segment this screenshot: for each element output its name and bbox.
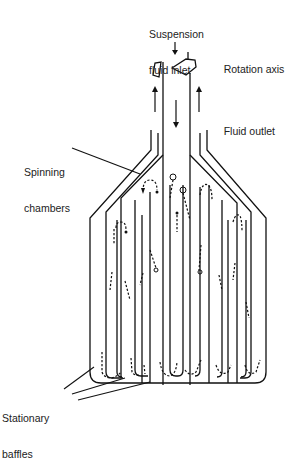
- particle-flow-paths: [102, 174, 260, 378]
- stationary-baffles-label: Stationary baffles: [2, 388, 49, 462]
- leader-lines: [64, 148, 150, 400]
- chamber-wall-3: [121, 155, 237, 383]
- rotation-axis-label: Rotation axis: [212, 51, 284, 87]
- fluid-outlet-label: Fluid outlet: [212, 113, 275, 149]
- down-flow-arrow-icon: [173, 100, 179, 128]
- spinning-chambers-label: Spinning chambers: [24, 142, 70, 238]
- inlet-label: Suspension fluid inlet: [149, 4, 204, 100]
- chamber-wall-4: [117, 185, 246, 383]
